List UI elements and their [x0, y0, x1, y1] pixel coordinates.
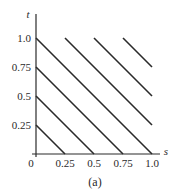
y-tick-label: 1.0	[17, 32, 31, 44]
level-line	[36, 96, 94, 154]
level-line	[65, 38, 152, 125]
level-line	[36, 38, 152, 154]
chart: t s 0 0.250.50.751.0 0.250.50.751.0 (a)	[0, 0, 180, 191]
y-tick-label: 0.5	[17, 90, 31, 102]
level-line	[123, 38, 152, 67]
level-lines	[36, 38, 152, 154]
origin-label: 0	[28, 157, 34, 169]
x-tick-label: 0.5	[87, 157, 101, 169]
y-tick-label: 0.75	[12, 61, 32, 73]
level-line	[36, 67, 123, 154]
level-line	[36, 125, 65, 154]
level-line	[94, 38, 152, 96]
figure-caption: (a)	[88, 175, 101, 189]
y-axis-label: t	[26, 8, 30, 20]
x-tick-label: 1.0	[145, 157, 159, 169]
y-tick-label: 0.25	[12, 119, 32, 131]
x-tick-label: 0.25	[55, 157, 75, 169]
x-tick-labels: 0.250.50.751.0	[55, 157, 159, 169]
y-tick-labels: 0.250.50.751.0	[12, 32, 32, 131]
x-axis-label: s	[164, 145, 168, 157]
x-tick-label: 0.75	[113, 157, 133, 169]
